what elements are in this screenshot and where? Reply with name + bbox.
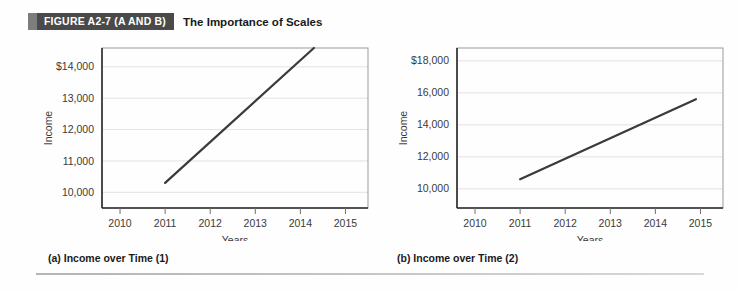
svg-text:2011: 2011 bbox=[509, 217, 532, 229]
figure-page: FIGURE A2-7 (A AND B) The Importance of … bbox=[0, 0, 740, 291]
panel-b: 10,00012,00014,00016,000$18,000 20102011… bbox=[385, 36, 730, 266]
chart-a-y-tick-labels: 10,00011,00012,00013,000$14,000 bbox=[56, 60, 94, 197]
chart-b-x-axis-title: Years bbox=[577, 234, 603, 241]
figure-header: FIGURE A2-7 (A AND B) The Importance of … bbox=[28, 13, 322, 30]
chart-a-gridlines bbox=[102, 67, 368, 192]
figure-title: The Importance of Scales bbox=[183, 16, 322, 28]
chart-a-y-axis-title: Income bbox=[42, 111, 54, 146]
svg-text:$18,000: $18,000 bbox=[411, 54, 449, 66]
chart-b-svg: 10,00012,00014,00016,000$18,000 20102011… bbox=[385, 36, 730, 241]
svg-text:11,000: 11,000 bbox=[63, 155, 94, 167]
svg-text:2014: 2014 bbox=[644, 217, 668, 229]
svg-text:2014: 2014 bbox=[289, 217, 313, 229]
svg-text:13,000: 13,000 bbox=[62, 92, 94, 104]
panel-a-caption: (a) Income over Time (1) bbox=[48, 252, 169, 264]
svg-text:12,000: 12,000 bbox=[417, 150, 449, 162]
chart-b-y-tick-labels: 10,00012,00014,00016,000$18,000 bbox=[411, 54, 449, 194]
chart-b-frame bbox=[457, 48, 723, 208]
chart-a-x-tick-labels: 201020112012201320142015 bbox=[108, 217, 357, 229]
svg-text:14,000: 14,000 bbox=[417, 118, 449, 130]
svg-text:10,000: 10,000 bbox=[62, 186, 94, 198]
svg-text:2010: 2010 bbox=[108, 217, 132, 229]
chart-b-x-tick-labels: 201020112012201320142015 bbox=[463, 217, 712, 229]
chart-a-svg: 10,00011,00012,00013,000$14,000 20102011… bbox=[30, 36, 375, 241]
chart-b-y-axis-title: Income bbox=[397, 111, 409, 146]
svg-text:16,000: 16,000 bbox=[417, 86, 449, 98]
svg-text:2015: 2015 bbox=[334, 217, 358, 229]
chart-a: 10,00011,00012,00013,000$14,000 20102011… bbox=[30, 36, 375, 241]
svg-text:2013: 2013 bbox=[599, 217, 623, 229]
chart-a-x-axis-title: Years bbox=[222, 234, 248, 241]
svg-text:12,000: 12,000 bbox=[62, 123, 94, 135]
chart-a-frame bbox=[102, 48, 368, 208]
panel-b-caption: (b) Income over Time (2) bbox=[397, 252, 518, 264]
chart-b-gridlines bbox=[457, 61, 723, 189]
svg-text:2015: 2015 bbox=[689, 217, 713, 229]
figure-number-badge: FIGURE A2-7 (A AND B) bbox=[28, 13, 174, 30]
chart-a-data-line bbox=[165, 48, 314, 183]
svg-text:2010: 2010 bbox=[463, 217, 487, 229]
svg-text:2011: 2011 bbox=[154, 217, 177, 229]
panel-a: 10,00011,00012,00013,000$14,000 20102011… bbox=[30, 36, 375, 266]
page-bottom-rule bbox=[36, 273, 704, 275]
svg-text:2012: 2012 bbox=[199, 217, 223, 229]
svg-text:10,000: 10,000 bbox=[417, 182, 449, 194]
chart-a-tickmarks bbox=[102, 48, 368, 214]
svg-text:2012: 2012 bbox=[554, 217, 578, 229]
chart-b-data-line bbox=[520, 99, 696, 179]
svg-text:2013: 2013 bbox=[244, 217, 268, 229]
svg-text:$14,000: $14,000 bbox=[56, 60, 94, 72]
chart-b: 10,00012,00014,00016,000$18,000 20102011… bbox=[385, 36, 730, 241]
